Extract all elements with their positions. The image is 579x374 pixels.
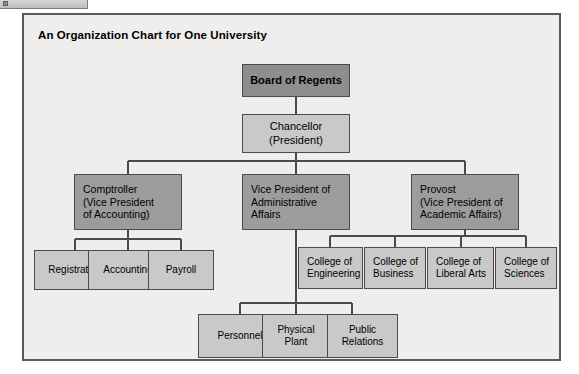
- node-public-relations[interactable]: Public Relations: [327, 314, 398, 358]
- node-label-line2: Engineering: [307, 268, 360, 280]
- node-college-of-liberal-arts[interactable]: College of Liberal Arts: [427, 247, 494, 289]
- node-label: Personnel: [217, 330, 262, 342]
- node-provost[interactable]: Provost (Vice President of Academic Affa…: [411, 174, 519, 230]
- node-label-line1: Chancellor: [270, 120, 323, 133]
- node-college-of-engineering[interactable]: College of Engineering: [298, 247, 363, 289]
- node-board-of-regents[interactable]: Board of Regents: [242, 64, 350, 97]
- node-college-of-sciences[interactable]: College of Sciences: [495, 247, 557, 289]
- node-label-line3: Affairs: [251, 208, 281, 221]
- node-label-line2: (Vice President of: [420, 196, 503, 209]
- chart-canvas: Board of Regents Chancellor (President) …: [24, 15, 559, 359]
- node-label-line2: Business: [373, 268, 414, 280]
- node-label-line2: (Vice President: [83, 196, 154, 209]
- window-chrome-fragment: [0, 0, 88, 9]
- node-label: Board of Regents: [250, 74, 342, 87]
- node-label-line2: Administrative: [251, 196, 317, 209]
- organization-chart-frame: An Organization Chart for One University: [22, 13, 561, 361]
- node-label-line2: Plant: [285, 336, 308, 348]
- node-label-line1: College of: [436, 256, 481, 268]
- node-physical-plant[interactable]: Physical Plant: [262, 314, 330, 358]
- node-label-line2: Sciences: [504, 268, 545, 280]
- node-chancellor[interactable]: Chancellor (President): [242, 114, 350, 153]
- node-label-line2: Relations: [342, 336, 384, 348]
- node-payroll[interactable]: Payroll: [148, 250, 214, 290]
- node-label: Accounting: [103, 264, 152, 276]
- node-label-line1: Provost: [420, 183, 456, 196]
- node-label-line1: College of: [504, 256, 549, 268]
- node-label-line1: Physical: [277, 324, 314, 336]
- node-label-line1: Vice President of: [251, 183, 330, 196]
- node-label: Payroll: [166, 264, 197, 276]
- node-college-of-business[interactable]: College of Business: [364, 247, 426, 289]
- node-label-line3: Academic Affairs): [420, 208, 502, 221]
- node-label-line1: Public: [349, 324, 376, 336]
- node-label-line1: Comptroller: [83, 183, 137, 196]
- node-label-line1: College of: [373, 256, 418, 268]
- node-label-line2: (President): [269, 134, 323, 147]
- node-vp-administrative-affairs[interactable]: Vice President of Administrative Affairs: [242, 174, 350, 230]
- node-label-line1: College of: [307, 256, 352, 268]
- chrome-handle-icon: [3, 1, 8, 6]
- node-comptroller[interactable]: Comptroller (Vice President of Accountin…: [74, 174, 182, 230]
- node-label-line2: Liberal Arts: [436, 268, 486, 280]
- node-label-line3: of Accounting): [83, 208, 150, 221]
